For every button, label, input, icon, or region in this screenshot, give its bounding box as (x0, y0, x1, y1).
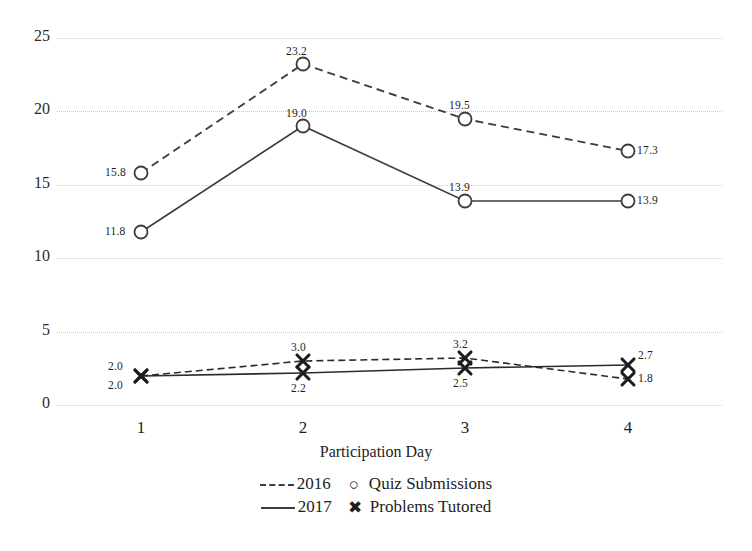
y-tick-5: 5 (22, 321, 50, 339)
x-tick-4: 4 (608, 418, 648, 438)
line-2017-quiz-submissions (141, 126, 628, 232)
point-label: 17.3 (637, 144, 658, 156)
point-label: 2.7 (638, 349, 653, 361)
legend-dashed-line-icon (260, 484, 294, 486)
point-label: 13.9 (449, 181, 470, 193)
y-tick-label: 15 (34, 174, 50, 191)
line-2016-problems-tutored (141, 358, 628, 379)
open-circle-icon: ○ (341, 475, 367, 495)
point-label: 2.2 (291, 382, 306, 394)
marker-open-circle (135, 226, 148, 239)
marker-open-circle (297, 120, 310, 133)
marker-open-circle (297, 58, 310, 71)
x-axis-title: Participation Day (0, 443, 752, 461)
point-label: 2.0 (108, 360, 123, 372)
plot-area: 15.8 23.2 19.5 17.3 11.8 19.0 13.9 13.9 … (57, 38, 722, 405)
point-label: 15.8 (105, 166, 126, 178)
line-2016-quiz-submissions (141, 64, 628, 173)
point-label: 3.2 (453, 338, 468, 350)
chart-legend: 2016 ○ Quiz Submissions 2017 ✖ Problems … (0, 474, 752, 517)
y-tick-20: 20 (22, 100, 50, 118)
bold-x-icon: ✖ (342, 497, 368, 518)
marker-open-circle (459, 195, 472, 208)
series-lines-svg (57, 38, 722, 405)
legend-item-2016: 2016 ○ Quiz Submissions (260, 474, 492, 494)
legend-series-label: Quiz Submissions (369, 474, 492, 494)
legend-series-label: Problems Tutored (370, 497, 491, 517)
line-2017-problems-tutored (141, 365, 628, 376)
point-label: 23.2 (286, 45, 307, 57)
y-tick-15: 15 (22, 174, 50, 192)
y-tick-label: 25 (34, 27, 50, 44)
y-tick-25: 25 (22, 27, 50, 45)
marker-open-circle (622, 195, 635, 208)
point-label: 1.8 (638, 372, 653, 384)
y-tick-label: 5 (42, 321, 50, 338)
point-label: 2.0 (108, 379, 123, 391)
marker-open-circle (135, 167, 148, 180)
marker-open-circle (622, 145, 635, 158)
y-tick-0: 0 (22, 394, 50, 412)
point-label: 19.0 (286, 107, 307, 119)
marker-open-circle (459, 113, 472, 126)
x-tick-2: 2 (283, 418, 323, 438)
legend-year-label: 2016 (297, 474, 341, 494)
point-label: 3.0 (291, 341, 306, 353)
point-label: 2.5 (453, 377, 468, 389)
y-tick-label: 10 (34, 247, 50, 264)
y-tick-label: 0 (42, 394, 50, 411)
legend-solid-line-icon (261, 507, 295, 509)
legend-year-label: 2017 (298, 497, 342, 517)
y-tick-10: 10 (22, 247, 50, 265)
gridline-0 (57, 405, 722, 406)
legend-item-2017: 2017 ✖ Problems Tutored (261, 496, 491, 517)
y-tick-label: 20 (34, 100, 50, 117)
x-tick-3: 3 (445, 418, 485, 438)
point-label: 11.8 (105, 225, 126, 237)
chart-figure: 25 20 15 10 5 0 (0, 0, 752, 551)
x-tick-1: 1 (121, 418, 161, 438)
point-label: 19.5 (449, 99, 470, 111)
point-label: 13.9 (637, 194, 658, 206)
